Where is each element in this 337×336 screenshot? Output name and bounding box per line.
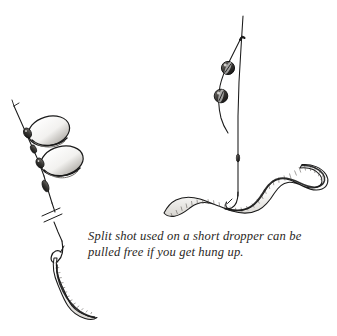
- split-shot-highlight-lower: [38, 160, 40, 162]
- right-split-shot-upper: [221, 61, 234, 75]
- illustration-page: Split shot used on a short dropper can b…: [0, 0, 337, 336]
- figure-caption: Split shot used on a short dropper can b…: [88, 229, 304, 260]
- right-split-shot-lower: [214, 89, 228, 103]
- fishing-rig-illustration: [0, 0, 337, 336]
- caption-line-2: pulled free if you get hung up.: [88, 245, 304, 261]
- split-shot-highlight-upper: [25, 130, 27, 132]
- right-split-shot-lower-highlight: [217, 92, 220, 95]
- right-line-sleeve: [236, 154, 239, 162]
- right-split-shot-upper-highlight: [224, 64, 227, 67]
- caption-line-1: Split shot used on a short dropper can b…: [88, 229, 304, 245]
